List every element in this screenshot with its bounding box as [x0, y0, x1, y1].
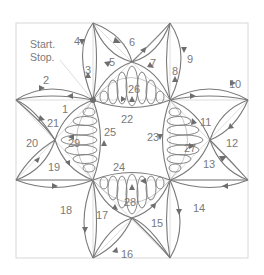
- label-2: 2: [43, 74, 49, 86]
- start-stop-point: [90, 97, 96, 103]
- label-9: 9: [187, 53, 193, 65]
- label-25: 25: [104, 126, 116, 138]
- label-24: 24: [113, 161, 125, 173]
- label-1: 1: [62, 103, 68, 115]
- label-20: 20: [26, 137, 38, 149]
- label-16: 16: [121, 248, 133, 260]
- quilting-path-diagram: Start. Stop. 1 2 3 4 5 6 7 8 9 10 11 12 …: [0, 0, 264, 275]
- label-26: 26: [128, 83, 140, 95]
- label-12: 12: [226, 137, 238, 149]
- label-21: 21: [47, 117, 59, 129]
- label-29: 29: [68, 137, 80, 149]
- label-7: 7: [150, 57, 156, 69]
- label-19: 19: [48, 161, 60, 173]
- label-22: 22: [121, 113, 133, 125]
- label-4: 4: [74, 35, 80, 47]
- label-13: 13: [203, 158, 215, 170]
- label-28: 28: [124, 196, 136, 208]
- stop-label: Stop.: [30, 51, 55, 63]
- start-label: Start.: [30, 38, 55, 50]
- label-17: 17: [96, 209, 108, 221]
- label-8: 8: [172, 65, 178, 77]
- label-6: 6: [129, 36, 135, 48]
- label-18: 18: [60, 204, 72, 216]
- label-27: 27: [184, 142, 196, 154]
- label-10: 10: [229, 78, 241, 90]
- label-11: 11: [200, 116, 211, 128]
- label-3: 3: [85, 64, 91, 76]
- label-15: 15: [151, 217, 163, 229]
- label-14: 14: [193, 202, 205, 214]
- label-23: 23: [147, 131, 159, 143]
- label-5: 5: [109, 56, 115, 68]
